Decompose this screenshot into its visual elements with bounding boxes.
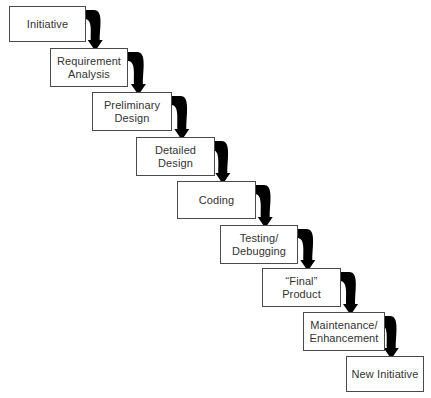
stage-label-requirement-analysis: Requirement Analysis — [55, 55, 123, 81]
stage-box-coding[interactable]: Coding — [177, 181, 256, 219]
stage-label-final-product: “Final” Product — [280, 275, 323, 301]
stage-label-new-initiative: New Initiative — [350, 368, 421, 381]
stage-box-initiative[interactable]: Initiative — [9, 6, 86, 42]
stage-box-preliminary-design[interactable]: Preliminary Design — [92, 92, 172, 131]
stage-box-final-product[interactable]: “Final” Product — [262, 268, 341, 307]
waterfall-diagram-canvas: InitiativeRequirement AnalysisPreliminar… — [0, 0, 431, 398]
stage-box-testing-debugging[interactable]: Testing/ Debugging — [220, 225, 298, 264]
caption-remnant — [6, 389, 206, 397]
stage-box-maintenance-enhancement[interactable]: Maintenance/ Enhancement — [303, 312, 385, 351]
stage-label-initiative: Initiative — [25, 18, 70, 31]
stage-box-new-initiative[interactable]: New Initiative — [346, 356, 424, 392]
stage-label-coding: Coding — [197, 194, 236, 207]
stage-box-requirement-analysis[interactable]: Requirement Analysis — [50, 48, 128, 87]
stage-label-testing-debugging: Testing/ Debugging — [230, 232, 288, 258]
stage-box-detailed-design[interactable]: Detailed Design — [136, 137, 215, 176]
stage-label-maintenance-enhancement: Maintenance/ Enhancement — [308, 319, 381, 345]
stage-label-detailed-design: Detailed Design — [153, 144, 198, 170]
stage-label-preliminary-design: Preliminary Design — [102, 99, 162, 125]
